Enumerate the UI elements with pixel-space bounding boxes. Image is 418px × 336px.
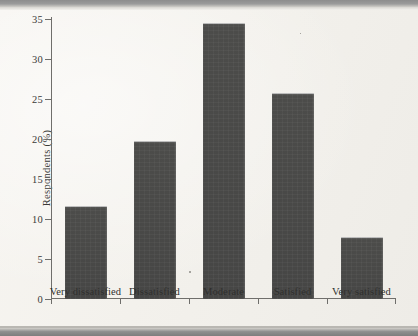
x-axis-category-divider	[258, 299, 259, 304]
x-axis-category-label: Dissatisfied	[129, 286, 180, 297]
y-axis-tick	[45, 219, 51, 220]
y-axis-tick-label: 35	[32, 14, 43, 25]
y-axis-tick-label: 30	[32, 54, 43, 65]
y-axis-tick-label: 5	[38, 254, 43, 265]
bar-satisfied	[272, 93, 314, 299]
y-axis-tick	[45, 99, 51, 100]
chart-plot-area: 05101520253035	[51, 19, 396, 299]
y-axis-tick	[45, 179, 51, 180]
y-axis-tick-label: 20	[32, 134, 43, 145]
x-axis-category-label: Very dissatisfied	[50, 286, 121, 297]
scan-speck	[189, 271, 191, 273]
y-axis-tick	[45, 59, 51, 60]
y-axis-tick-label: 10	[32, 214, 43, 225]
y-axis-line	[51, 17, 52, 301]
x-axis-category-divider	[189, 299, 190, 304]
x-axis-category-label: Very satisfied	[332, 286, 391, 297]
y-axis-tick	[45, 19, 51, 20]
scan-edge-band-bottom	[0, 328, 418, 336]
y-axis-tick-label: 0	[38, 294, 43, 305]
y-axis-tick-label: 15	[32, 174, 43, 185]
bar-dissatisfied	[134, 141, 176, 299]
x-axis-category-divider	[51, 299, 52, 304]
scan-edge-band-top	[0, 0, 418, 7]
scanned-figure-page: Respondents (%) 05101520253035 Very diss…	[0, 0, 418, 336]
y-axis-tick	[45, 259, 51, 260]
x-axis-category-divider	[120, 299, 121, 304]
x-axis-category-divider	[395, 299, 396, 304]
x-axis-category-label: Moderate	[203, 286, 244, 297]
x-axis-category-label: Satisfied	[274, 286, 312, 297]
x-axis-category-divider	[327, 299, 328, 304]
bar-moderate	[203, 23, 245, 299]
scan-edge-band-top-fade	[0, 7, 418, 10]
scan-speck	[300, 33, 301, 34]
y-axis-tick-label: 25	[32, 94, 43, 105]
y-axis-tick	[45, 139, 51, 140]
